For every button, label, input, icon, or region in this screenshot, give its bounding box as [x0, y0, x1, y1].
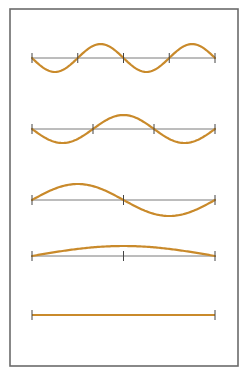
standing-wave-diagram — [0, 0, 245, 373]
